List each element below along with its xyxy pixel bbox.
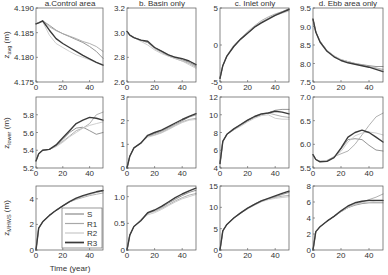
panel-row2-col1: 020405.25.45.65.8 bbox=[23, 97, 103, 178]
legend: SR1R2R3 bbox=[62, 208, 102, 248]
y-tick-label: 4 bbox=[214, 164, 219, 173]
x-tick-label: 40 bbox=[271, 169, 280, 178]
x-tick-label: 0 bbox=[34, 83, 39, 92]
y-tick-label: 5 bbox=[214, 225, 219, 234]
y-tick-label: 10 bbox=[209, 203, 218, 212]
series-line-r1 bbox=[127, 31, 196, 67]
panel-row3-col3: 02040051015 bbox=[209, 182, 289, 260]
panel-row1-col2: 020402.62.83.03.2 bbox=[114, 4, 196, 92]
series-line-s bbox=[313, 19, 383, 66]
series-line-r2 bbox=[313, 201, 383, 250]
series-line-r3 bbox=[127, 31, 196, 64]
y-tick-label: 8.5 bbox=[300, 41, 312, 50]
x-tick-label: 40 bbox=[85, 169, 94, 178]
y-tick-label: 1 bbox=[121, 140, 126, 149]
y-tick-label: 1.0 bbox=[114, 193, 126, 202]
column-title-b: b. Basin only bbox=[139, 0, 185, 8]
x-tick-label: 20 bbox=[337, 83, 346, 92]
y-tick-label: 6.5 bbox=[300, 117, 312, 126]
x-tick-label: 20 bbox=[243, 169, 252, 178]
y-tick-label: 5 bbox=[214, 4, 219, 13]
x-tick-label: 0 bbox=[125, 251, 130, 260]
x-tick-label: 40 bbox=[178, 83, 187, 92]
axes-frame bbox=[127, 8, 196, 82]
panel-row3-col1: 02040024SR1R2R3 bbox=[30, 186, 103, 260]
y-tick-label: 0 bbox=[121, 164, 126, 173]
axes-frame bbox=[313, 186, 383, 250]
y-tick-label: 4.185 bbox=[14, 29, 35, 38]
series-line-r1 bbox=[220, 113, 289, 164]
series-line-r1 bbox=[220, 10, 289, 79]
y-tick-label: 2.6 bbox=[114, 78, 126, 87]
series-line-s bbox=[220, 109, 289, 163]
y-tick-label: 9.0 bbox=[300, 23, 312, 32]
y-tick-label: 0 bbox=[121, 246, 126, 255]
series-line-r2 bbox=[220, 11, 289, 78]
y-tick-label: 4 bbox=[307, 214, 312, 223]
series-line-r2 bbox=[127, 31, 196, 68]
y-tick-label: 4 bbox=[30, 195, 35, 204]
x-tick-label: 20 bbox=[58, 251, 67, 260]
y-tick-label: 5.6 bbox=[23, 129, 35, 138]
series-line-s bbox=[313, 203, 383, 250]
y-tick-label: 5.4 bbox=[23, 146, 35, 155]
y-tick-label: 3.2 bbox=[114, 4, 126, 13]
y-tick-label: 0 bbox=[307, 246, 312, 255]
y-tick-label: 9.5 bbox=[300, 4, 312, 13]
x-tick-label: 40 bbox=[85, 83, 94, 92]
y-tick-label: 3.0 bbox=[114, 29, 126, 38]
x-tick-label: 0 bbox=[218, 169, 223, 178]
legend-label-r2: R2 bbox=[87, 229, 98, 238]
y-tick-label: 5.8 bbox=[23, 111, 35, 120]
series-line-s bbox=[220, 9, 289, 79]
y-tick-label: 2.8 bbox=[114, 53, 126, 62]
panels: 020404.1754.1804.1854.190020402.62.83.03… bbox=[14, 4, 383, 260]
x-tick-label: 0 bbox=[311, 251, 316, 260]
column-title-d: d. Ebb area only bbox=[319, 0, 377, 8]
series-line-r3 bbox=[220, 191, 289, 250]
panel-row2-col2: 020400123 bbox=[121, 93, 196, 178]
series-line-r1 bbox=[127, 194, 196, 251]
series-line-s bbox=[127, 115, 196, 168]
x-tick-label: 20 bbox=[243, 83, 252, 92]
y-tick-label: 6.0 bbox=[300, 140, 312, 149]
x-tick-label: 0 bbox=[34, 169, 39, 178]
panel-row2-col4: 020405.56.06.57.0 bbox=[300, 93, 383, 178]
panel-row2-col3: 020404681012 bbox=[209, 93, 289, 178]
series-line-r2 bbox=[220, 115, 289, 164]
svg-text:zMHWS (m): zMHWS (m) bbox=[2, 200, 12, 236]
series-line-r3 bbox=[220, 10, 289, 79]
y-tick-label: 0 bbox=[214, 41, 219, 50]
legend-label-r1: R1 bbox=[87, 220, 98, 229]
svg-text:zlower (m): zlower (m) bbox=[2, 117, 12, 149]
x-tick-label: 40 bbox=[85, 251, 94, 260]
y-tick-label: 3 bbox=[121, 93, 126, 102]
ylabel-row3: zMHWS (m) bbox=[2, 200, 12, 236]
series-line-s bbox=[127, 190, 196, 250]
x-tick-label: 20 bbox=[58, 83, 67, 92]
x-tick-label: 20 bbox=[58, 169, 67, 178]
series-line-s bbox=[127, 31, 196, 66]
x-tick-label: 0 bbox=[218, 251, 223, 260]
ylabel-row1: zavg (m) bbox=[2, 31, 12, 58]
x-tick-label: 0 bbox=[311, 169, 316, 178]
column-title-a: a.Control area bbox=[45, 0, 96, 8]
y-tick-label: 6 bbox=[214, 146, 219, 155]
series-line-r2 bbox=[36, 122, 103, 161]
axes-frame bbox=[127, 186, 196, 250]
y-tick-label: 8.0 bbox=[300, 60, 312, 69]
panel-row1-col4: 020407.58.08.59.09.5 bbox=[300, 4, 383, 92]
x-tick-label: 40 bbox=[271, 251, 280, 260]
column-title-c: c. Inlet only bbox=[235, 0, 275, 8]
axes-frame bbox=[220, 8, 289, 82]
axes-frame bbox=[313, 8, 383, 82]
y-tick-label: 0.5 bbox=[114, 219, 126, 228]
x-tick-label: 20 bbox=[150, 83, 159, 92]
series-line-r1 bbox=[127, 118, 196, 168]
x-tick-label: 40 bbox=[271, 83, 280, 92]
series-line-r2 bbox=[127, 195, 196, 251]
y-tick-label: -5 bbox=[211, 78, 219, 87]
x-tick-label: 0 bbox=[218, 83, 223, 92]
y-tick-label: 4.190 bbox=[14, 4, 35, 13]
y-tick-label: 0 bbox=[30, 246, 35, 255]
